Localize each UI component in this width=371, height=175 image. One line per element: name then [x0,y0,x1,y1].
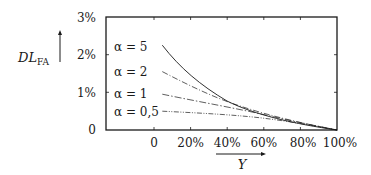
x-tick-labels: 0 20% 40% 60% 80% 100% [150,136,357,150]
x-axis-arrow-icon [216,152,266,156]
series-alpha-1 [162,94,337,130]
y-tick-0: 0 [88,123,96,137]
y-tick-1: 1% [77,86,96,100]
chart-canvas: DLFA 3% 2% 1% 0 0 20% 40% 60% 80% 100% Y [0,0,371,175]
y-tick-3: 3% [77,11,96,25]
y-tick-2: 2% [77,48,96,62]
series-alpha-5 [162,45,337,130]
legend-label-alpha-5: α = 5 [114,40,147,54]
legend-label-alpha-2: α = 2 [114,65,147,79]
legend: α = 5 α = 2 α = 1 α = 0,5 [114,40,159,119]
x-tick-0: 0 [150,136,158,150]
x-tick-2: 40% [214,136,241,150]
y-axis-arrow-icon [58,30,62,62]
series-lines [162,45,337,130]
legend-label-alpha-0-5: α = 0,5 [114,105,159,119]
x-axis-label: Y [238,157,248,172]
series-alpha-0-5 [162,111,337,130]
x-tick-4: 80% [290,136,317,150]
y-tick-labels: 3% 2% 1% 0 [77,11,96,137]
series-alpha-2 [162,72,337,130]
x-tick-3: 60% [250,136,277,150]
y-axis-label: DLFA [17,50,50,67]
x-tick-1: 20% [177,136,204,150]
legend-label-alpha-1: α = 1 [114,87,147,101]
x-tick-5: 100% [323,136,357,150]
